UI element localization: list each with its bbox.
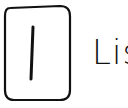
list-icon [2,2,72,102]
item-label: Lis [92,32,128,72]
